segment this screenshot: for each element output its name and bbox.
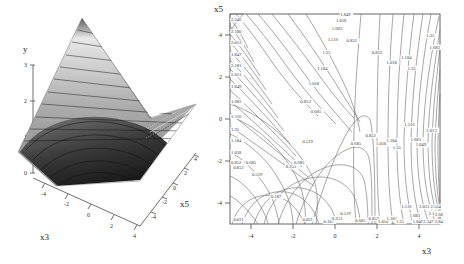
contour-level-label: 0.685	[355, 218, 366, 223]
contour-x-tick--4: -4	[249, 233, 254, 239]
surface-x3-tick--2: -2	[64, 201, 69, 207]
surface-x3-tick-4: 4	[133, 233, 136, 239]
contour-level-label: 2.011	[231, 72, 242, 77]
contour-level-label: 2.013	[426, 128, 437, 133]
contour-level-label: 1.018	[336, 18, 347, 23]
contour-level-label: 0.187	[271, 194, 282, 199]
contour-plot-svg: 0.0210.0210.1870.1870.3530.3530.5190.519…	[212, 0, 464, 264]
surface-x5-tick-4: 4	[194, 156, 197, 162]
surface-x3-tick--4: -4	[41, 191, 46, 197]
contour-level-label: 1.184	[317, 66, 328, 71]
contour-y-tick--2: -2	[217, 158, 222, 164]
contour-plot-panel: 0.0210.0210.1870.1870.3530.3530.5190.519…	[212, 0, 464, 264]
contour-level-label: 0.519	[340, 211, 351, 216]
contour-level-label: 0.519	[302, 139, 313, 144]
contour-y-tick--4: -4	[217, 200, 222, 206]
contour-x-tick-0: 0	[334, 233, 337, 239]
contour-x-tick-4: 4	[418, 233, 421, 239]
contour-level-label: 1.683	[231, 99, 242, 104]
contour-level-label: 1.018	[386, 60, 397, 65]
contour-level-label: 1.683	[332, 26, 343, 31]
contour-level-label: 0.852	[372, 50, 383, 55]
contour-level-label: 0.021	[233, 217, 244, 222]
contour-x-axis-title: x3	[422, 246, 432, 256]
contour-lines	[230, 14, 440, 224]
contour-level-label: 1.35	[393, 145, 402, 150]
contour-level-label: 0.353	[332, 216, 343, 221]
contour-label-group: 0.0210.0210.1870.1870.3530.3530.5190.519…	[230, 12, 445, 224]
contour-level-label: 1.35	[407, 66, 416, 71]
surface-mesh	[18, 18, 196, 188]
contour-x-axis: -4 -2 0 2 4 x3	[249, 224, 432, 256]
contour-level-label: 1.683	[411, 137, 422, 142]
contour-level-label: 1.516	[404, 122, 415, 127]
contour-level-label: 0.685	[246, 160, 257, 165]
contour-y-tick-2: 2	[219, 74, 222, 80]
contour-level-label: 1.184	[386, 138, 397, 143]
contour-level-label: 2.181	[231, 63, 242, 68]
contour-level-label: 0.519	[252, 172, 263, 177]
contour-x-tick--2: -2	[291, 233, 296, 239]
contour-level-label: 2.013	[419, 204, 430, 209]
surface-x5-tick--2: -2	[162, 199, 167, 205]
surface-x5-tick-0: 0	[173, 185, 176, 191]
contour-level-label: 0.021	[302, 217, 313, 222]
contour-level-label: 1.683	[430, 45, 441, 50]
contour-level-label: 1.018	[231, 150, 242, 155]
contour-level-label: 1.018	[376, 141, 387, 146]
contour-level-label: 1.847	[231, 52, 242, 57]
surface-y-tick-3: 3	[24, 62, 27, 68]
contour-level-label: 2.84	[435, 219, 444, 224]
contour-level-label: 0.852	[365, 133, 376, 138]
contour-plot-frame	[230, 14, 440, 224]
contour-level-label: 1.516	[231, 114, 242, 119]
surface-y-tick-0: 0	[24, 170, 27, 176]
contour-level-label: 0.852	[300, 99, 311, 104]
surface-x3-tick-2: 2	[110, 223, 113, 229]
contour-level-label: 0.852	[347, 38, 358, 43]
surface-x5-tick-2: 2	[184, 170, 187, 176]
surface-x5-tick--4: -4	[151, 214, 156, 220]
contour-level-label: 1.683	[410, 213, 421, 218]
contour-level-label: 1.018	[309, 81, 320, 86]
contour-level-label: 2.534	[431, 204, 442, 209]
contour-level-label: 1.849	[231, 84, 242, 89]
contour-level-label: 2.68	[435, 212, 444, 217]
contour-level-label: 1.849	[413, 219, 424, 224]
contour-level-label: 2.347	[423, 219, 434, 224]
contour-y-tick-0: 0	[219, 116, 222, 122]
surface-x3-tick-0: 0	[87, 212, 90, 218]
surface-y-tick-2: 2	[24, 98, 27, 104]
contour-x-tick-2: 2	[376, 233, 379, 239]
contour-level-label: 1.516	[328, 37, 339, 42]
contour-level-label: 1.849	[416, 142, 427, 147]
contour-level-label: 0.685	[351, 141, 362, 146]
contour-y-tick-4: 4	[219, 32, 222, 38]
contour-level-label: 1.35	[396, 219, 405, 224]
contour-level-label: 1.184	[231, 138, 242, 143]
surface-x5-axis-title: x5	[180, 199, 190, 209]
surface-x3-axis: -4 -2 0 2 4 x3	[33, 178, 140, 242]
contour-level-label: 0.852	[233, 165, 244, 170]
figure-container: 3 2 1 0 y	[0, 0, 464, 264]
contour-level-label: 1.35	[231, 127, 240, 132]
contour-level-label: 1.849	[340, 12, 351, 17]
contour-level-label: 0.685	[294, 160, 305, 165]
contour-level-label: 2.180	[231, 29, 242, 34]
contour-level-label: 2.013	[231, 40, 242, 45]
contour-level-label: 1.184	[401, 55, 412, 60]
contour-level-label: 1.516	[401, 204, 412, 209]
surface-plot-panel: 3 2 1 0 y	[0, 0, 232, 264]
contour-level-label: 0.685	[311, 109, 322, 114]
contour-level-label: 1.35	[426, 33, 435, 38]
surface-y-axis-title: y	[23, 44, 28, 54]
contour-y-axis: 4 2 0 -2 -4 x5	[214, 4, 230, 206]
surface-plot-svg: 3 2 1 0 y	[0, 0, 232, 264]
contour-level-label: 2.346	[231, 17, 242, 22]
surface-x3-axis-title: x3	[40, 232, 50, 242]
contour-level-label: 1.35	[322, 50, 331, 55]
contour-y-axis-title: x5	[214, 4, 224, 14]
contour-level-label: 0.852	[231, 160, 242, 165]
